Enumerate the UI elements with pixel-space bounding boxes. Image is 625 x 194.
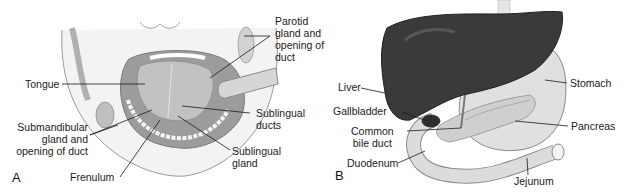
- panel-letter-a: A: [12, 170, 21, 185]
- label-line: ducts: [256, 119, 305, 131]
- label-gallbladder: Gallbladder: [333, 105, 387, 117]
- label-line: Common: [351, 125, 394, 137]
- label-submandibular-gland: Submandibular gland and opening of duct: [12, 121, 88, 157]
- label-sublingual-gland: Sublingual gland: [232, 145, 281, 169]
- label-pancreas: Pancreas: [571, 120, 615, 132]
- label-line: opening of duct: [12, 145, 88, 157]
- label-line: gland: [232, 157, 281, 169]
- label-sublingual-ducts: Sublingual ducts: [256, 107, 305, 131]
- panel-b-liver-stomach: Liver Gallbladder Common bile duct Duode…: [315, 0, 625, 194]
- label-jejunum: Jejunum: [514, 175, 554, 187]
- label-duodenum: Duodenum: [347, 157, 398, 169]
- label-line: Submandibular: [12, 121, 88, 133]
- label-common-bile-duct: Common bile duct: [351, 125, 394, 149]
- label-line: gland and: [12, 133, 88, 145]
- label-line: bile duct: [351, 137, 394, 149]
- panel-a-salivary-glands: Parotid gland and opening of duct Tongue…: [0, 0, 315, 194]
- label-stomach: Stomach: [570, 77, 611, 89]
- label-line: Sublingual: [232, 145, 281, 157]
- label-frenulum: Frenulum: [70, 171, 114, 183]
- label-liver: Liver: [338, 81, 361, 93]
- label-line: Sublingual: [256, 107, 305, 119]
- label-tongue: Tongue: [25, 78, 59, 90]
- panel-letter-b: B: [335, 168, 344, 183]
